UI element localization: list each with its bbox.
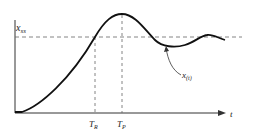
rise-time-label: TR xyxy=(89,119,98,130)
curve-pointer-arrow xyxy=(166,48,181,75)
peak-time-label: TP xyxy=(117,119,126,130)
steady-state-label: xss xyxy=(15,22,26,35)
x-axis-arrow-icon xyxy=(218,110,226,116)
step-response-diagram: xss x(t) TR TP t xyxy=(0,0,253,136)
response-curve xyxy=(15,14,225,112)
time-axis-label: t xyxy=(230,109,233,119)
curve-label: x(t) xyxy=(181,70,192,82)
